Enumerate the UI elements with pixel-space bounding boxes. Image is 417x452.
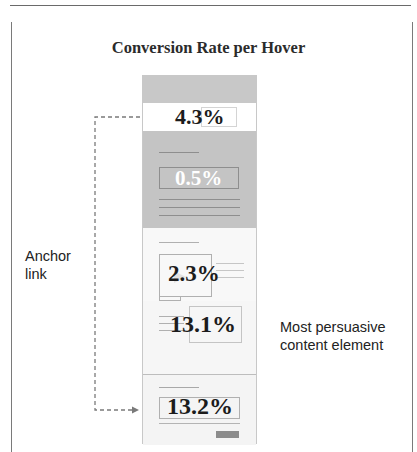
persuasive-label-line1: Most persuasive: [280, 318, 386, 336]
anchor-link-label-line1: Anchor: [25, 247, 71, 265]
arrowhead-icon: [132, 407, 139, 414]
anchor-link-label: Anchor link: [25, 247, 71, 283]
persuasive-label: Most persuasive content element: [280, 318, 386, 354]
anchor-link-label-line2: link: [25, 265, 71, 283]
persuasive-label-line2: content element: [280, 336, 386, 354]
